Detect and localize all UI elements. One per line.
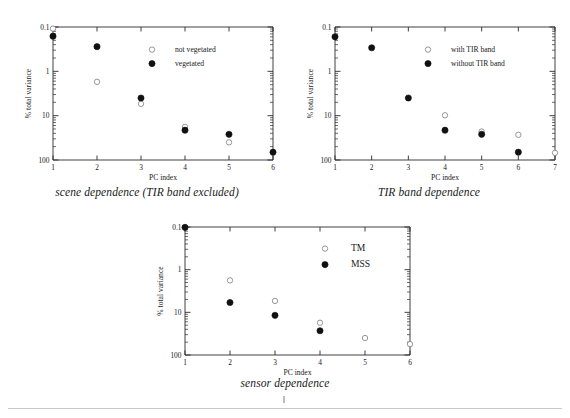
data-point-open bbox=[272, 298, 277, 303]
data-point-filled bbox=[138, 95, 144, 101]
legend-marker-filled bbox=[425, 61, 431, 67]
y-axis-title: % total variance bbox=[156, 266, 165, 316]
legend-marker-open bbox=[425, 47, 430, 52]
data-point-open bbox=[552, 150, 557, 155]
x-tick-label: 4 bbox=[443, 163, 447, 172]
y-tick-label: 1 bbox=[328, 67, 332, 76]
data-point-filled bbox=[479, 131, 485, 137]
y-tick-label: 0.1 bbox=[322, 23, 332, 32]
data-point-filled bbox=[515, 149, 521, 155]
legend-label: vegetated bbox=[175, 59, 204, 68]
x-tick-label: 7 bbox=[553, 163, 557, 172]
x-tick-label: 4 bbox=[318, 358, 322, 367]
y-tick-label: 1 bbox=[46, 67, 50, 76]
panel-sensor-caption: sensor dependence bbox=[140, 377, 430, 389]
legend-marker-open bbox=[149, 47, 154, 52]
data-point-filled bbox=[272, 312, 278, 318]
figure-root: 1001010.1123456PC index% total variancen… bbox=[0, 0, 570, 418]
panel-sensor-dependence: 1001010.1123456PC index% total varianceT… bbox=[140, 205, 430, 400]
x-tick-label: 5 bbox=[227, 163, 231, 172]
data-point-open bbox=[50, 26, 55, 31]
x-axis-title: PC index bbox=[431, 173, 459, 182]
legend-marker-filled bbox=[322, 262, 328, 268]
y-tick-label: 0.1 bbox=[172, 223, 182, 232]
x-tick-label: 5 bbox=[363, 358, 367, 367]
data-point-filled bbox=[405, 95, 411, 101]
tir-band-dependence-plot: 1001010.11234567PC index% total variance… bbox=[288, 0, 570, 185]
data-point-filled bbox=[442, 127, 448, 133]
panel-tir-dependence: 1001010.11234567PC index% total variance… bbox=[288, 0, 570, 210]
x-tick-label: 1 bbox=[51, 163, 55, 172]
data-point-open bbox=[407, 341, 412, 346]
x-tick-label: 2 bbox=[95, 163, 99, 172]
x-axis-title: PC index bbox=[283, 368, 311, 377]
page-tick-mark bbox=[283, 396, 285, 403]
x-tick-label: 5 bbox=[480, 163, 484, 172]
y-tick-label: 100 bbox=[170, 351, 181, 360]
y-tick-label: 0.1 bbox=[40, 23, 50, 32]
x-tick-label: 6 bbox=[408, 358, 412, 367]
y-tick-label: 10 bbox=[174, 308, 182, 317]
data-point-open bbox=[226, 140, 231, 145]
data-point-open bbox=[94, 79, 99, 84]
data-point-filled bbox=[332, 34, 338, 40]
sensor-dependence-plot: 1001010.1123456PC index% total varianceT… bbox=[140, 205, 430, 380]
data-point-filled bbox=[182, 127, 188, 133]
data-point-open bbox=[227, 278, 232, 283]
series-vegetated bbox=[50, 33, 276, 155]
panel-tir-caption: TIR band dependence bbox=[288, 186, 570, 198]
x-tick-label: 3 bbox=[139, 163, 143, 172]
x-tick-label: 3 bbox=[406, 163, 410, 172]
series-mss bbox=[182, 224, 323, 334]
data-point-filled bbox=[270, 149, 276, 155]
y-axis-title: % total variance bbox=[306, 68, 315, 118]
x-tick-label: 2 bbox=[228, 358, 232, 367]
y-tick-label: 100 bbox=[38, 156, 49, 165]
data-point-filled bbox=[94, 44, 100, 50]
legend-label: without TIR band bbox=[451, 59, 505, 68]
data-point-filled bbox=[226, 131, 232, 137]
x-tick-label: 1 bbox=[333, 163, 337, 172]
legend-label: not vegetated bbox=[175, 45, 216, 54]
x-tick-label: 1 bbox=[183, 358, 187, 367]
data-point-filled bbox=[182, 224, 188, 230]
data-point-open bbox=[317, 320, 322, 325]
data-point-filled bbox=[227, 299, 233, 305]
y-axis-title: % total variance bbox=[24, 68, 33, 118]
data-point-open bbox=[362, 335, 367, 340]
scene-dependence-plot: 1001010.1123456PC index% total variancen… bbox=[0, 0, 290, 185]
legend-marker-open bbox=[322, 246, 327, 251]
y-tick-label: 100 bbox=[320, 156, 331, 165]
panel-scene-dependence: 1001010.1123456PC index% total variancen… bbox=[0, 0, 290, 210]
series-not-vegetated bbox=[50, 26, 231, 145]
footer-rule bbox=[8, 408, 562, 409]
series-with-tir-band bbox=[442, 113, 557, 156]
x-tick-label: 6 bbox=[271, 163, 275, 172]
data-point-filled bbox=[317, 328, 323, 334]
x-tick-label: 4 bbox=[183, 163, 187, 172]
series-tm bbox=[182, 225, 412, 347]
legend-marker-filled bbox=[149, 61, 155, 67]
data-point-open bbox=[138, 101, 143, 106]
x-tick-label: 6 bbox=[516, 163, 520, 172]
x-axis-title: PC index bbox=[149, 173, 177, 182]
x-tick-label: 3 bbox=[273, 358, 277, 367]
data-point-open bbox=[442, 113, 447, 118]
legend-label: TM bbox=[351, 242, 366, 253]
legend-label: with TIR band bbox=[451, 45, 495, 54]
data-point-filled bbox=[369, 45, 375, 51]
y-tick-label: 1 bbox=[178, 265, 182, 274]
panel-scene-caption: scene dependence (TIR band excluded) bbox=[2, 186, 292, 198]
legend-label: MSS bbox=[351, 258, 370, 269]
data-point-open bbox=[516, 132, 521, 137]
y-tick-label: 10 bbox=[324, 111, 332, 120]
data-point-filled bbox=[50, 33, 56, 39]
x-tick-label: 2 bbox=[370, 163, 374, 172]
y-tick-label: 10 bbox=[42, 111, 50, 120]
